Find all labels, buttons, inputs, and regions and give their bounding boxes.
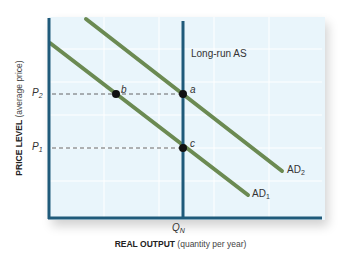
ad1-label: AD1 (252, 188, 270, 200)
grid-lines (49, 17, 322, 218)
y-axis-label: PRICE LEVEL (average price) (14, 60, 24, 175)
qn-label: QN (172, 222, 185, 234)
point-c-label: c (190, 138, 195, 149)
point-b (112, 90, 120, 98)
point-a-label: a (190, 84, 196, 95)
p2-label: P2 (32, 87, 43, 99)
dashed-guides (52, 94, 183, 148)
ad2-label: AD2 (287, 164, 305, 176)
p1-label: P1 (32, 141, 43, 153)
point-c (179, 144, 187, 152)
x-axis-label: REAL OUTPUT (quantity per year) (0, 239, 341, 249)
lras-label: Long-run AS (191, 48, 247, 59)
point-b-label: b (121, 84, 127, 95)
point-a (179, 90, 187, 98)
diagram-canvas (0, 0, 341, 264)
